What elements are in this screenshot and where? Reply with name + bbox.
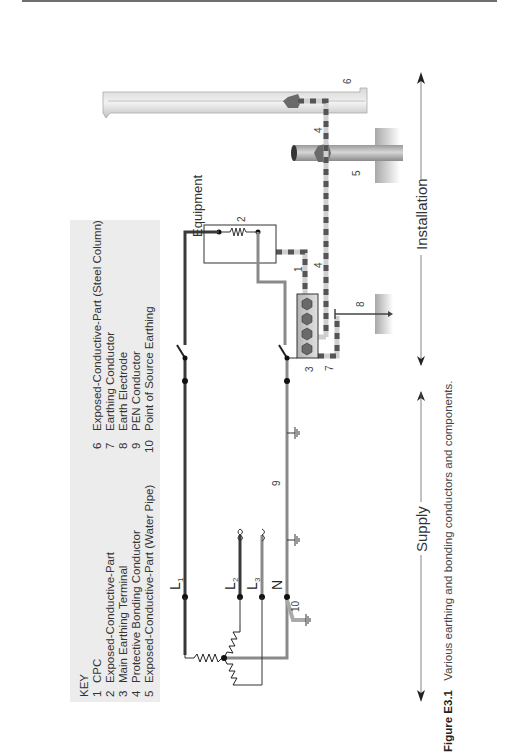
svg-text:4: 4 [130, 690, 142, 697]
earth-symbol [287, 427, 299, 439]
svg-text:5: 5 [143, 691, 155, 697]
svg-text:7: 7 [324, 365, 335, 371]
water-pipe [291, 128, 403, 183]
svg-text:8: 8 [117, 443, 129, 449]
svg-text:L: L [167, 582, 183, 590]
svg-text:6: 6 [91, 443, 103, 449]
svg-text:PEN Conductor: PEN Conductor [130, 351, 142, 431]
svg-text:Exposed-Conductive-Part (Water: Exposed-Conductive-Part (Water Pipe) [143, 484, 155, 683]
cpc-conductor [276, 252, 305, 294]
svg-text:6: 6 [342, 78, 353, 84]
svg-text:8: 8 [355, 301, 366, 307]
svg-text:4: 4 [313, 127, 324, 133]
svg-text:N: N [269, 580, 285, 590]
svg-text:Exposed-Conductive-Part (Steel: Exposed-Conductive-Part (Steel Column) [91, 220, 103, 431]
svg-text:Main Earthing Terminal: Main Earthing Terminal [117, 566, 129, 683]
svg-text:Exposed-Conductive-Part: Exposed-Conductive-Part [104, 551, 116, 683]
svg-text:Point of Source Earthing: Point of Source Earthing [143, 306, 155, 431]
earthing-diagram: KEY 1 CPC 2 Exposed-Conductive-Part 3 Ma… [0, 0, 526, 755]
svg-text:Earth Electrode: Earth Electrode [117, 352, 129, 431]
phase-l1 [177, 232, 219, 658]
svg-text:2: 2 [236, 216, 247, 222]
svg-text:5: 5 [351, 170, 362, 176]
svg-text:CPC: CPC [91, 659, 103, 683]
svg-text:1: 1 [293, 266, 304, 272]
svg-text:3: 3 [253, 577, 262, 582]
zone-arrows: Installation Supply [413, 72, 430, 702]
svg-text:L: L [222, 582, 238, 590]
svg-text:3: 3 [304, 366, 315, 372]
earth-symbol [287, 534, 299, 546]
key-title: KEY [78, 674, 90, 697]
source-earth-symbol [306, 614, 310, 626]
caption-text: Various earthing and bonding conductors … [442, 381, 454, 681]
svg-text:2: 2 [231, 577, 240, 582]
equipment-label: Equipment [190, 174, 205, 237]
svg-text:9: 9 [130, 443, 142, 449]
svg-text:2: 2 [104, 691, 116, 697]
transformer-star [194, 625, 240, 685]
svg-text:10: 10 [290, 600, 301, 612]
svg-text:4: 4 [313, 262, 324, 268]
figure-caption: Figure E3.1 Various earthing and bonding… [442, 381, 454, 752]
svg-text:3: 3 [117, 691, 129, 697]
svg-text:Earthing Conductor: Earthing Conductor [104, 332, 116, 431]
svg-text:1: 1 [91, 691, 103, 697]
main-earthing-terminal [297, 294, 318, 358]
svg-text:10: 10 [143, 440, 155, 453]
supply-label: Supply [413, 506, 430, 552]
svg-text:1: 1 [176, 577, 185, 582]
phase-l2 [237, 529, 243, 625]
installation-label: Installation [413, 178, 430, 250]
caption-label: Figure E3.1 [442, 689, 454, 752]
svg-text:Protective Bonding Conductor: Protective Bonding Conductor [130, 530, 142, 683]
neutral-return [258, 232, 285, 345]
svg-text:L: L [244, 582, 260, 590]
key-panel: KEY 1 CPC 2 Exposed-Conductive-Part 3 Ma… [70, 220, 160, 702]
svg-text:7: 7 [104, 443, 116, 449]
svg-text:9: 9 [271, 480, 282, 486]
